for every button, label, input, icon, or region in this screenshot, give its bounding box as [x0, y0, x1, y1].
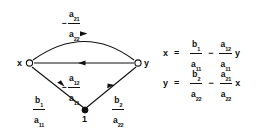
edge-label-left-fraction: b1a11 — [33, 90, 45, 128]
denominator-sub: 22 — [225, 96, 231, 102]
edge-label-middle-denominator: a11 — [68, 88, 80, 107]
equations-block: x = b1a11 − a12a11 y y = b2a22 − a21a22 … — [163, 38, 276, 98]
equation-x-term1-numerator: b1 — [190, 34, 202, 54]
numerator-sub: 21 — [225, 76, 231, 82]
numerator-sub: 1 — [197, 46, 200, 52]
edge-label-left-denominator: a11 — [33, 110, 45, 128]
equation-y-term2-numerator: a21 — [220, 64, 232, 84]
edge-label-y-to-x-middle: −a12a11 — [62, 68, 80, 107]
edge-label-right-denominator: a22 — [112, 110, 124, 128]
equation-x-operator: − — [202, 48, 219, 58]
equation-x-trailing-variable: y — [232, 48, 240, 58]
edge-label-top-numerator: a21 — [68, 4, 80, 24]
edge-x-to-y-top — [33, 42, 134, 61]
edge-x-to-y-top-arrowhead — [80, 31, 88, 36]
numerator-sub: 12 — [74, 80, 80, 86]
equation-y-operator: − — [202, 78, 219, 88]
equation-x-equals: = — [174, 48, 190, 58]
equation-y-term1-denominator: a22 — [190, 84, 202, 103]
node-label-one: 1 — [82, 115, 87, 124]
equation-y-term1: b2a22 — [190, 64, 202, 103]
edge-label-right-numerator: b2 — [112, 90, 124, 110]
edge-label-one-to-y: b2a22 — [112, 90, 124, 128]
equation-y-lhs: y — [163, 78, 174, 88]
denominator-sub: 11 — [74, 100, 79, 106]
numerator-sub: 12 — [225, 46, 231, 52]
edge-one-to-y — [86, 67, 136, 108]
node-y-circle — [135, 60, 141, 66]
equation-y-trailing-variable: x — [232, 78, 240, 88]
denominator-sub: 22 — [74, 36, 80, 42]
edge-label-x-to-y-top: −a21a22 — [62, 4, 80, 43]
edge-y-to-x-middle-arrowhead — [78, 60, 86, 65]
denominator-sub: 22 — [118, 122, 124, 128]
equation-y-term2: a21a22 — [220, 64, 232, 103]
numerator-sub: 21 — [74, 16, 80, 22]
equation-y-term2-denominator: a22 — [220, 84, 232, 103]
numerator-sub: 2 — [197, 76, 200, 82]
denominator-sub: 11 — [39, 122, 44, 128]
edge-label-one-to-x: b1a11 — [33, 90, 45, 128]
edge-label-middle-fraction: a12a11 — [68, 68, 80, 107]
node-label-x: x — [17, 59, 22, 68]
numerator-sub: 2 — [119, 102, 122, 108]
edge-label-right-fraction: b2a22 — [112, 90, 124, 128]
edge-label-middle-sign: − — [62, 82, 67, 92]
numerator-sub: 1 — [40, 102, 43, 108]
denominator-sub: 22 — [196, 96, 202, 102]
edge-label-top-fraction: a21a22 — [68, 4, 80, 43]
edge-label-top-sign: − — [62, 18, 67, 28]
node-one-dot — [82, 107, 88, 113]
edge-label-top-denominator: a22 — [68, 24, 80, 43]
equation-y-term1-numerator: b2 — [190, 64, 202, 84]
equation-y-equals: = — [174, 78, 190, 88]
equation-x-lhs: x — [163, 48, 174, 58]
equation-x-term2-numerator: a12 — [219, 34, 231, 54]
node-label-y: y — [144, 59, 149, 68]
edge-label-middle-numerator: a12 — [68, 68, 80, 88]
node-x-circle — [26, 60, 32, 66]
equation-y: y = b2a22 − a21a22 x — [163, 68, 276, 98]
edge-label-left-numerator: b1 — [33, 90, 45, 110]
